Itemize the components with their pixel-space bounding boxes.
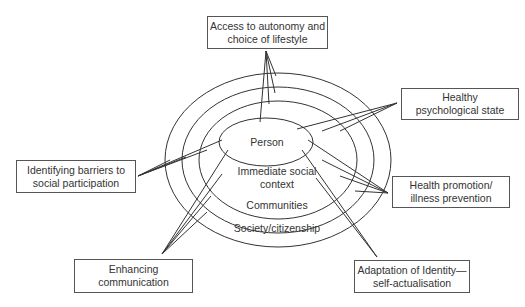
box-health-promotion: Health promotion/ illness prevention [392, 176, 510, 208]
box-healthy-line1: Healthy [442, 91, 478, 104]
box-adaptation-identity: Adaptation of Identity— self-actualisati… [354, 260, 470, 293]
communities-label: Communities [246, 199, 307, 211]
ring-label-person: Person [242, 136, 292, 149]
box-health-promotion-line2: illness prevention [410, 192, 491, 205]
box-access-autonomy-line1: Access to autonomy and [210, 20, 325, 33]
box-healthy-psychological-state: Healthy psychological state [401, 88, 519, 120]
box-adaptation-line1: Adaptation of Identity— [357, 264, 466, 277]
box-health-promotion-line1: Health promotion/ [410, 179, 493, 192]
box-enhancing-line1: Enhancing [109, 263, 159, 276]
box-access-autonomy-line2: choice of lifestyle [228, 33, 308, 46]
ring-label-communities: Communities [222, 199, 332, 212]
immediate-label-line2: context [222, 178, 332, 191]
box-identifying-barriers: Identifying barriers to social participa… [16, 160, 136, 193]
box-access-autonomy: Access to autonomy and choice of lifesty… [207, 16, 328, 49]
box-adaptation-line2: self-actualisation [373, 277, 451, 290]
box-enhancing-line2: communication [98, 276, 169, 289]
box-healthy-line2: psychological state [416, 104, 505, 117]
immediate-label-line1: Immediate social [222, 165, 332, 178]
society-label: Society/citizenship [234, 222, 320, 234]
box-identifying-barriers-line1: Identifying barriers to [27, 164, 125, 177]
person-label: Person [250, 136, 283, 148]
ring-label-immediate-social-context: Immediate social context [222, 165, 332, 191]
ring-label-society: Society/citizenship [215, 222, 339, 235]
box-identifying-barriers-line2: social participation [33, 177, 119, 190]
box-enhancing-communication: Enhancing communication [74, 259, 193, 293]
